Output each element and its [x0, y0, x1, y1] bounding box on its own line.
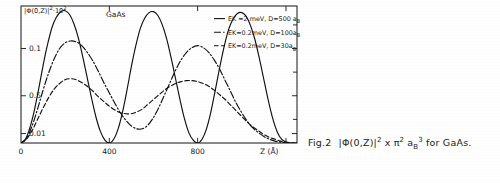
- plot-title: GaAs: [106, 10, 126, 19]
- y-tick-label: 0.5: [29, 91, 41, 100]
- y-axis-label: |Φ(0,Z)|2·102: [24, 5, 66, 15]
- plot-frame: [21, 6, 297, 143]
- y-tick-label: 0.1: [29, 44, 41, 53]
- y-axis-label-main: |Φ(0,Z)|: [24, 7, 50, 15]
- caption-bohr-exponent: 3: [418, 136, 423, 144]
- x-tick-label: 400: [102, 147, 117, 156]
- axis-ticks: [21, 6, 297, 143]
- x-axis-label: Z (Å): [260, 147, 279, 156]
- curve-series-3: [21, 79, 297, 143]
- plot-canvas: 04008000.010.50.1 GaAs |Φ(0,Z)|2·102 Z (…: [18, 3, 300, 153]
- legend-label-2: EK=0.2meV, D=100aB: [228, 29, 301, 38]
- x-tick-label: 0: [19, 147, 24, 156]
- caption-expression: |Φ(0,Z)|: [339, 137, 377, 148]
- y-axis-label-factor-exponent: 2: [63, 5, 66, 11]
- caption-figure-number: Fig.2: [308, 137, 332, 148]
- plot-area: 04008000.010.50.1 GaAs |Φ(0,Z)|2·102 Z (…: [18, 3, 300, 153]
- caption-tail: for GaAs.: [426, 137, 472, 148]
- figure-caption: Fig.2|Φ(0,Z)|2x π2aB3for GaAs.: [308, 136, 498, 151]
- caption-exponent-1: 2: [377, 136, 382, 144]
- y-axis-label-factor: ·10: [53, 7, 64, 15]
- caption-bohr-subscript: B: [413, 143, 418, 151]
- curve-series-2: [21, 41, 297, 143]
- legend-label-3: EK=0.2meV, D=30aB: [228, 42, 297, 51]
- x-tick-label: 800: [190, 147, 205, 156]
- axis-tick-labels: 04008000.010.50.1: [19, 44, 205, 156]
- legend-label-1: EK =2.meV, D=500 aB: [228, 15, 301, 24]
- figure-container: 04008000.010.50.1 GaAs |Φ(0,Z)|2·102 Z (…: [0, 0, 500, 183]
- caption-exponent-2: 2: [400, 136, 405, 144]
- caption-middle: x π: [385, 137, 400, 148]
